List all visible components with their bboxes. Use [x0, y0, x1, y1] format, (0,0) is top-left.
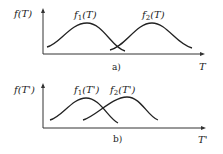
x-axis-label-a: T	[199, 61, 207, 72]
figure-b: f(T') T' f1(T') f2(T') b)	[13, 83, 207, 145]
y-axis-label-a: f(T)	[13, 8, 32, 19]
curve-f2-a	[110, 23, 192, 50]
y-axis-label-b: f(T')	[13, 84, 35, 95]
caption-b: b)	[113, 134, 122, 144]
distribution-diagram: f(T) T f1(T) f2(T) a) f(T') T' f1(T') f2…	[0, 0, 223, 154]
curve-label-f1-b: f1(T')	[73, 84, 99, 97]
y-arrow-icon	[41, 8, 45, 13]
x-arrow-icon	[200, 52, 205, 56]
caption-a: a)	[112, 62, 121, 72]
curve-label-f2-a: f2(T)	[141, 9, 165, 22]
y-arrow-icon	[41, 83, 45, 88]
curve-label-f1-a: f1(T)	[73, 9, 97, 22]
x-axis-label-b: T'	[198, 134, 207, 145]
curve-label-f2-b: f2(T')	[109, 84, 135, 97]
x-arrow-icon	[201, 126, 206, 130]
figure-a: f(T) T f1(T) f2(T) a)	[13, 8, 207, 72]
curve-f1-a	[47, 23, 125, 51]
